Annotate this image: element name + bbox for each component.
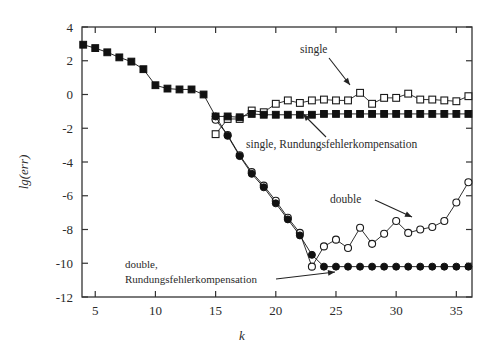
data-point-open-circle	[417, 226, 424, 233]
data-point-open-square	[345, 97, 352, 104]
data-point-filled-square	[357, 111, 364, 118]
data-point-open-square	[357, 89, 364, 96]
data-point-open-square	[405, 90, 412, 97]
y-tick-label: -12	[56, 290, 73, 305]
data-point-open-square	[309, 97, 316, 104]
data-point-filled-circle	[212, 113, 219, 120]
data-point-filled-square	[80, 41, 87, 48]
data-point-filled-circle	[357, 263, 364, 270]
data-point-filled-square	[188, 86, 195, 93]
data-point-filled-square	[260, 111, 267, 118]
data-point-open-square	[417, 96, 424, 103]
data-point-filled-circle	[260, 184, 267, 191]
data-point-filled-circle	[393, 263, 400, 270]
annotation-label-1: single, Rundungsfehlerkompensation	[246, 138, 417, 151]
data-point-filled-square	[128, 58, 135, 65]
data-point-filled-circle	[453, 263, 460, 270]
data-point-filled-square	[381, 111, 388, 118]
data-point-filled-square	[248, 111, 255, 118]
x-tick-label: 35	[450, 303, 463, 318]
data-point-filled-square	[224, 113, 231, 120]
y-axis-title: lg(err)	[16, 155, 31, 190]
data-point-filled-circle	[224, 132, 231, 139]
data-point-open-circle	[369, 240, 376, 247]
data-point-filled-circle	[284, 216, 291, 223]
data-point-filled-square	[393, 111, 400, 118]
x-axis-title: k	[239, 328, 245, 343]
y-tick-label: -2	[62, 121, 73, 136]
data-point-filled-square	[92, 45, 99, 52]
data-point-open-circle	[441, 218, 448, 225]
y-tick-label: 0	[67, 87, 74, 102]
data-point-filled-square	[284, 111, 291, 118]
data-point-filled-circle	[405, 263, 412, 270]
data-point-filled-square	[345, 111, 352, 118]
data-point-filled-square	[236, 114, 243, 121]
data-point-open-circle	[393, 218, 400, 225]
data-point-filled-circle	[381, 263, 388, 270]
data-point-open-square	[272, 100, 279, 107]
data-point-filled-circle	[272, 200, 279, 207]
data-point-open-circle	[465, 179, 472, 186]
annotation-label-2: double	[330, 193, 361, 205]
data-point-filled-circle	[308, 251, 315, 258]
data-point-open-square	[393, 94, 400, 101]
data-point-filled-square	[417, 111, 424, 118]
x-tick-label: 5	[92, 303, 99, 318]
data-point-filled-square	[441, 111, 448, 118]
data-point-open-square	[333, 97, 340, 104]
y-tick-label: -8	[62, 222, 73, 237]
data-point-open-circle	[453, 199, 460, 206]
data-point-open-square	[453, 98, 460, 105]
data-point-filled-circle	[248, 170, 255, 177]
data-point-filled-square	[405, 111, 412, 118]
data-point-open-square	[212, 131, 219, 138]
y-tick-label: 4	[67, 20, 74, 35]
data-point-filled-square	[369, 111, 376, 118]
data-point-filled-square	[429, 111, 436, 118]
data-point-filled-square	[116, 54, 123, 61]
data-point-filled-square	[200, 91, 207, 98]
data-point-filled-square	[272, 111, 279, 118]
data-point-filled-square	[164, 85, 171, 92]
data-point-filled-square	[333, 111, 340, 118]
data-point-filled-square	[321, 111, 328, 118]
x-tick-label: 25	[329, 303, 342, 318]
data-point-open-circle	[405, 229, 412, 236]
annotation-label-3: double,	[125, 258, 158, 270]
data-point-open-circle	[357, 224, 364, 231]
x-tick-label: 15	[209, 303, 222, 318]
data-point-open-circle	[429, 223, 436, 230]
data-point-filled-square	[140, 66, 147, 73]
data-point-filled-circle	[429, 263, 436, 270]
annotation-label-0: single	[300, 43, 327, 56]
data-point-filled-square	[152, 82, 159, 89]
data-point-open-circle	[308, 263, 315, 270]
x-tick-label: 20	[269, 303, 282, 318]
data-point-filled-square	[453, 111, 460, 118]
x-tick-label: 10	[149, 303, 162, 318]
data-point-filled-circle	[320, 263, 327, 270]
data-point-filled-circle	[236, 153, 243, 160]
data-point-open-square	[296, 100, 303, 107]
data-point-filled-circle	[465, 263, 472, 270]
data-point-open-square	[381, 94, 388, 101]
y-tick-label: -4	[62, 155, 73, 170]
data-point-open-square	[321, 96, 328, 103]
y-tick-label: 2	[67, 53, 74, 68]
data-point-filled-square	[465, 111, 472, 118]
data-point-filled-circle	[369, 263, 376, 270]
data-point-open-square	[429, 96, 436, 103]
y-tick-label: -10	[56, 256, 73, 271]
data-point-filled-square	[104, 49, 111, 56]
data-point-open-square	[465, 93, 472, 100]
data-point-filled-circle	[417, 263, 424, 270]
data-point-open-circle	[320, 243, 327, 250]
data-point-open-square	[369, 100, 376, 107]
data-point-open-circle	[332, 236, 339, 243]
data-point-open-circle	[381, 230, 388, 237]
error-convergence-chart: 5101520253035420-2-4-6-8-10-12 singlesin…	[0, 0, 491, 357]
data-point-filled-square	[176, 86, 183, 93]
data-point-filled-circle	[332, 263, 339, 270]
data-point-open-square	[284, 97, 291, 104]
